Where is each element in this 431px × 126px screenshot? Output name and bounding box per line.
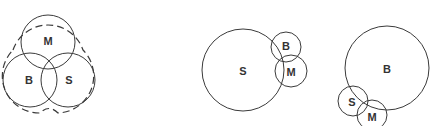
label-s: S — [239, 65, 246, 77]
label-b: B — [383, 63, 391, 75]
venn-diagrams-canvas: M B S S B M B S M — [0, 0, 431, 126]
label-m: M — [286, 66, 295, 78]
label-b: B — [282, 40, 290, 52]
diagram-s-dominant: S B M — [202, 29, 307, 111]
label-m: M — [367, 111, 376, 123]
label-m: M — [43, 35, 52, 47]
label-s: S — [65, 74, 72, 86]
label-s: S — [348, 96, 355, 108]
label-b: B — [25, 74, 33, 86]
diagram-b-dominant: B S M — [338, 26, 429, 126]
diagram-balanced-overlap: M B S — [2, 15, 95, 113]
